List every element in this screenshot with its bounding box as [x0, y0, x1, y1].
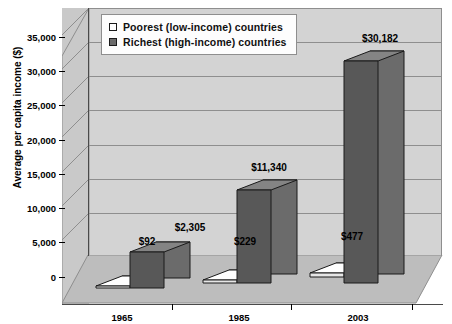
- y-tick-20000: [59, 140, 65, 141]
- y-tick-35000: [59, 37, 65, 38]
- x-tick-label-2003: 2003: [347, 312, 368, 323]
- gridline-side-25000: [62, 76, 89, 103]
- gridline-side-20000: [62, 110, 89, 137]
- bar-richest-2003[interactable]: [344, 41, 406, 284]
- bar-label-richest-1985: $11,340: [251, 162, 287, 173]
- gridline-side-35000: [62, 8, 89, 35]
- y-tick-15000: [59, 174, 65, 175]
- x-tick-label-1985: 1985: [228, 312, 249, 323]
- chart-container: 35,000 30,000 25,000 20,000 15,000 10,00…: [0, 0, 452, 324]
- gridline-side-15000: [62, 145, 89, 172]
- legend-item-richest[interactable]: Richest (high-income) countries: [109, 34, 287, 49]
- y-tick-label-10000: 10,000: [27, 203, 56, 214]
- y-tick-label-15000: 15,000: [27, 169, 56, 180]
- x-axis-line: [62, 304, 443, 305]
- y-tick-label-5000: 5,000: [32, 237, 56, 248]
- y-tick-label-30000: 30,000: [27, 66, 56, 77]
- bar-richest-1985[interactable]: [237, 170, 299, 284]
- legend-swatch-poorest-icon: [109, 23, 117, 31]
- gridline-side-30000: [62, 42, 89, 69]
- y-axis-line: [88, 8, 89, 256]
- legend-item-poorest[interactable]: Poorest (low-income) countries: [109, 19, 287, 34]
- bar-label-poorest-1985: $229: [234, 236, 256, 247]
- y-tick-label-35000: 35,000: [27, 32, 56, 43]
- x-tick-2003: [412, 304, 413, 310]
- x-tick-1985: [291, 304, 292, 310]
- y-tick-25000: [59, 105, 65, 106]
- y-tick-5000: [59, 242, 65, 243]
- legend-swatch-richest-icon: [109, 38, 117, 46]
- chart-legend[interactable]: Poorest (low-income) countries Richest (…: [101, 14, 297, 55]
- gridline-side-5000: [62, 213, 89, 240]
- x-tick-1965: [172, 304, 173, 310]
- bar-label-poorest-1965: $92: [139, 236, 156, 247]
- y-axis-title: Average per capita income ($): [12, 23, 23, 213]
- y-tick-label-20000: 20,000: [27, 135, 56, 146]
- y-tick-10000: [59, 208, 65, 209]
- bar-label-richest-1965: $2,305: [175, 222, 206, 233]
- x-tick-label-1965: 1965: [111, 312, 132, 323]
- y-tick-label-0: 0: [51, 272, 56, 283]
- bar-label-richest-2003: $30,182: [362, 33, 398, 44]
- legend-label-richest: Richest (high-income) countries: [123, 36, 287, 48]
- y-tick-30000: [59, 71, 65, 72]
- y-tick-label-25000: 25,000: [27, 100, 56, 111]
- y-tick-0: [59, 277, 65, 278]
- bar-label-poorest-2003: $477: [341, 231, 363, 242]
- gridline-side-10000: [62, 179, 89, 206]
- legend-label-poorest: Poorest (low-income) countries: [123, 21, 283, 33]
